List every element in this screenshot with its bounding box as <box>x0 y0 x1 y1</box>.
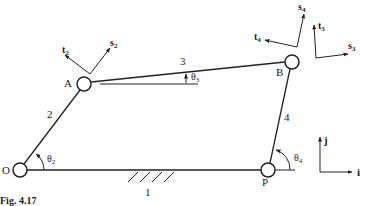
link-2-label: 2 <box>47 108 53 120</box>
theta3-label: θ3 <box>191 71 200 84</box>
joint-P <box>261 163 275 177</box>
j-label: j <box>323 134 328 146</box>
s4-vector-arrow <box>297 14 304 47</box>
t2-label: t2 <box>62 44 69 57</box>
s4-label: s4 <box>298 1 306 14</box>
link-3-coupler <box>91 62 285 82</box>
t3-vector-arrow <box>314 25 316 58</box>
four-bar-linkage-diagram: 1 2 3 θ3 4 θ2 θ4 O A B P t2 s2 t4 s4 t3 … <box>0 0 366 206</box>
theta4-label: θ4 <box>294 152 303 165</box>
joint-B <box>285 55 299 69</box>
link-3-label: 3 <box>180 55 186 67</box>
s3-label: s3 <box>348 40 356 53</box>
joint-P-label: P <box>262 176 268 188</box>
figure-caption: Fig. 4.17 <box>0 195 36 206</box>
joint-B-label: B <box>276 66 283 78</box>
s3-vector-arrow <box>316 54 348 58</box>
s2-label: s2 <box>110 37 118 50</box>
t3-label: t3 <box>318 20 325 33</box>
theta2-label: θ2 <box>47 153 56 166</box>
link-4-label: 4 <box>284 111 290 123</box>
joint-O <box>13 163 27 177</box>
t4-vector-arrow <box>265 40 297 47</box>
t4-label: t4 <box>254 31 261 44</box>
joint-O-label: O <box>2 164 10 176</box>
ground-hatch <box>128 172 174 182</box>
link-1-label: 1 <box>145 186 151 198</box>
t2-vector-arrow <box>65 55 90 74</box>
theta4-arc <box>276 150 290 170</box>
i-label: i <box>357 166 360 178</box>
link-2-crank <box>24 90 80 164</box>
theta2-arc <box>36 154 44 170</box>
joint-A <box>77 77 91 91</box>
joint-A-label: A <box>64 77 72 89</box>
s2-vector-arrow <box>90 48 110 74</box>
